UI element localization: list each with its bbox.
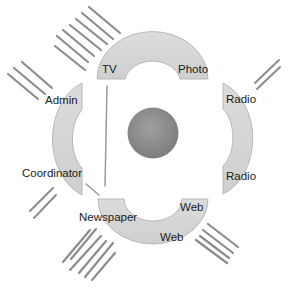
label-radio-top: Radio: [226, 94, 256, 106]
hatch-lines-top-right: [255, 60, 280, 89]
center-circle: [128, 108, 179, 159]
label-admin: Admin: [45, 95, 78, 107]
hatch-lines-bottom-left: [63, 229, 115, 280]
diagonal-connector: [86, 184, 99, 195]
label-photo: Photo: [178, 64, 208, 76]
label-web-top: Web: [180, 202, 203, 214]
label-coordinator: Coordinator: [22, 168, 82, 180]
vertical-connector: [105, 86, 107, 186]
diagram-svg: [0, 0, 298, 290]
label-radio-bottom: Radio: [226, 171, 256, 183]
label-newspaper: Newspaper: [79, 212, 137, 224]
label-web-bottom: Web: [160, 232, 183, 244]
diagram-canvas: TV Photo Radio Radio Admin Coordinator N…: [0, 0, 298, 290]
hatch-lines-lower-left: [30, 188, 56, 218]
hatch-lines-bottom-right: [196, 224, 238, 263]
label-tv: TV: [102, 64, 117, 76]
connector-lines: [86, 86, 107, 195]
